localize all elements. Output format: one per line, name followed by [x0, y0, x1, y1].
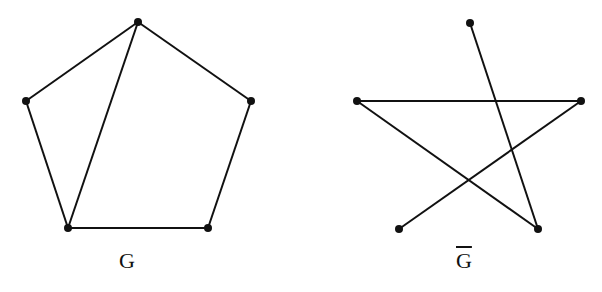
graph-vertex — [247, 97, 255, 105]
graph-vertex — [353, 97, 361, 105]
graph-vertex — [577, 97, 585, 105]
graph-edge — [26, 22, 138, 101]
graph-vertex — [395, 225, 403, 233]
graph-vertex — [64, 224, 72, 232]
graph-edge — [470, 23, 538, 229]
graph-g-label: G — [119, 248, 135, 274]
graph-edge — [208, 101, 251, 228]
graph-g — [22, 18, 255, 232]
graph-g-complement-label: G — [456, 248, 472, 274]
graph-edge — [357, 101, 538, 229]
graph-vertex — [466, 19, 474, 27]
graph-edge — [138, 22, 251, 101]
graph-edge — [26, 101, 68, 228]
graph-vertex — [22, 97, 30, 105]
graph-vertex — [534, 225, 542, 233]
graph-canvas — [0, 0, 602, 292]
graph-edge — [399, 101, 581, 229]
graph-edge — [68, 22, 138, 228]
graph-g-complement — [353, 19, 585, 233]
graph-vertex — [204, 224, 212, 232]
graph-vertex — [134, 18, 142, 26]
